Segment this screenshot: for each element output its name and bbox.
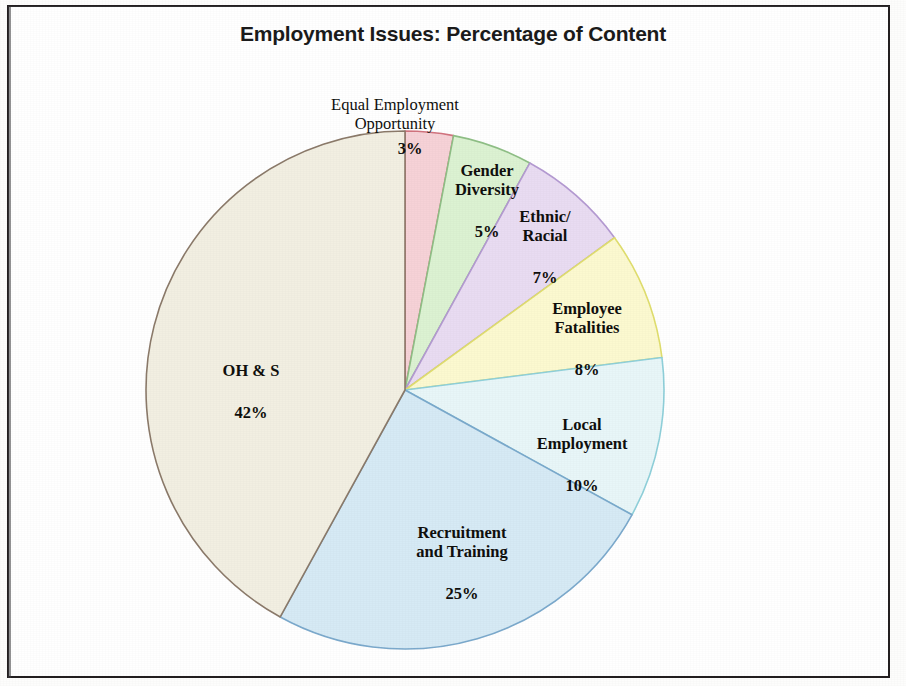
slice-label-text: Ethnic/ Racial [490, 208, 600, 245]
figure-page: Employment Issues: Percentage of Content… [0, 0, 906, 686]
slice-label-text: Recruitment and Training [372, 524, 552, 561]
slice-percent-text: 25% [372, 585, 552, 603]
slice-label-recruitment-and-training: Recruitment and Training 25% [372, 506, 552, 622]
slice-label-oh-and-s: OH & S 42% [186, 344, 316, 441]
slice-percent-text: 8% [522, 361, 652, 379]
slice-label-text: Local Employment [512, 416, 652, 453]
slice-label-employee-fatalities: Employee Fatalities 8% [522, 282, 652, 398]
slice-percent-text: 42% [186, 404, 316, 422]
slice-label-text: Employee Fatalities [522, 300, 652, 337]
slice-label-text: OH & S [186, 362, 316, 380]
slice-label-local-employment: Local Employment 10% [512, 398, 652, 514]
slice-value-equal-employment-opportunity: 3% [380, 122, 440, 159]
slice-percent-text: 3% [398, 139, 423, 158]
slice-percent-text: 10% [512, 477, 652, 495]
